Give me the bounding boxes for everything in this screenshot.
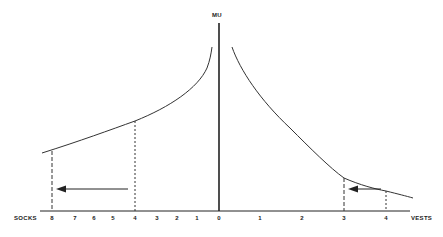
y-axis-label: MU: [212, 12, 222, 18]
mu-diagram: [0, 0, 443, 237]
vests-tick-2: 2: [300, 215, 304, 221]
socks-tick-6: 6: [92, 215, 96, 221]
center-tick-0: 0: [217, 215, 221, 221]
socks-axis-label: SOCKS: [14, 215, 37, 221]
vests-marginal-utility-curve: [232, 47, 413, 198]
vests-tick-1: 1: [258, 215, 262, 221]
socks-tick-2: 2: [175, 215, 179, 221]
socks-tick-7: 7: [73, 215, 77, 221]
socks-tick-1: 1: [195, 215, 199, 221]
socks-marginal-utility-curve: [42, 47, 212, 153]
socks-tick-5: 5: [111, 215, 115, 221]
vests-tick-3: 3: [342, 215, 346, 221]
vests-axis-label: VESTS: [411, 215, 432, 221]
socks-arrowhead-icon: [56, 186, 66, 193]
vests-arrowhead-icon: [348, 186, 358, 193]
vests-tick-4: 4: [384, 215, 388, 221]
socks-tick-4: 4: [133, 215, 137, 221]
socks-tick-8: 8: [50, 215, 54, 221]
socks-tick-3: 3: [155, 215, 159, 221]
